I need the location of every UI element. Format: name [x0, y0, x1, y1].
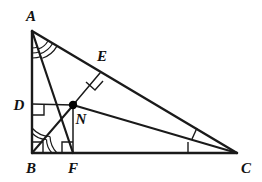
- vertex-label-A: A: [25, 8, 36, 24]
- arc-NBC-2: [50, 137, 57, 154]
- incenter-point-N: [69, 101, 77, 109]
- bisector-from-A-through-N-to-F: [32, 31, 73, 153]
- vertex-label-B: B: [25, 160, 36, 176]
- vertex-label-E: E: [96, 48, 107, 64]
- vertex-label-C: C: [241, 160, 252, 176]
- arc-NAC-2: [40, 44, 52, 54]
- geometry-diagram: A B C D E F N: [0, 0, 262, 182]
- triangle-sides: [32, 31, 237, 153]
- arc-NAC-1: [38, 41, 47, 49]
- tick-ACN: [192, 128, 197, 139]
- geometry-canvas: A B C D E F N: [0, 0, 262, 182]
- right-angle-square-at-D: [32, 104, 44, 115]
- vertex-label-N: N: [75, 111, 88, 127]
- vertex-label-D: D: [13, 97, 25, 113]
- right-angle-marks: [32, 81, 103, 153]
- perpendicular-ND: [32, 104, 73, 105]
- side-AC: [32, 31, 237, 153]
- bisector-from-C-to-N: [73, 105, 237, 153]
- vertex-label-F: F: [67, 160, 78, 176]
